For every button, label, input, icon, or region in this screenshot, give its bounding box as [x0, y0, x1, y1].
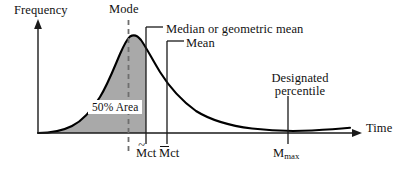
mean-annotation-label: Mean	[186, 37, 215, 50]
tick-median-accented-m: ~M	[136, 147, 147, 160]
tick-label-mmax: Mmax	[273, 147, 299, 161]
tilde-accent-icon: ~	[136, 139, 147, 152]
tick-median-rest: ct	[147, 146, 156, 160]
x-axis-label: Time	[366, 122, 392, 135]
percentile-annotation-label: Designated percentile	[259, 72, 341, 98]
percentile-label-line1: Designated	[271, 71, 328, 85]
overbar-accent-icon	[160, 146, 169, 147]
mode-annotation-label: Mode	[109, 3, 139, 16]
percentile-label-line2: percentile	[259, 85, 341, 98]
shaded-area-region	[38, 35, 146, 133]
y-axis-label: Frequency	[14, 4, 68, 17]
tick-mmax-subscript: max	[284, 151, 299, 161]
tick-mean-accented-m: M	[159, 147, 170, 160]
tick-mmax-base: M	[273, 146, 284, 160]
figure-container: Frequency Time Mode Median or geometric …	[0, 0, 399, 179]
tick-label-median: ~Mct	[136, 147, 156, 160]
tick-label-mean: Mct	[159, 147, 179, 160]
tick-mean-base: M	[159, 146, 170, 160]
median-annotation-label: Median or geometric mean	[166, 23, 303, 36]
tick-mean-rest: ct	[170, 146, 179, 160]
arrow-right-icon	[352, 129, 362, 137]
area-annotation-label: 50% Area	[88, 100, 142, 114]
arrow-up-icon	[34, 19, 42, 29]
